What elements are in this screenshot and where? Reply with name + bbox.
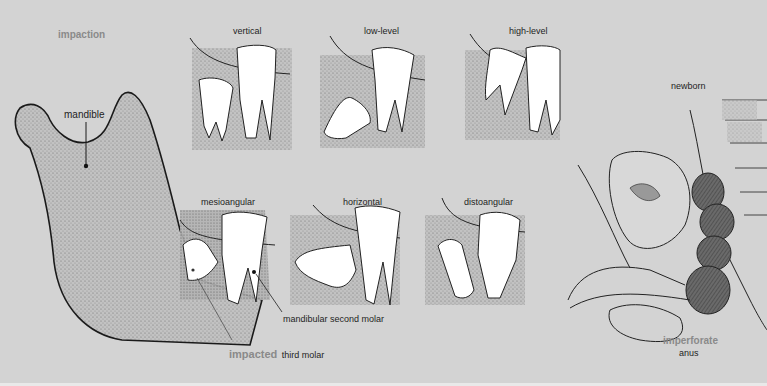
third-molar-highlight: impacted — [229, 348, 277, 360]
tooth-panel-horizontal — [290, 205, 400, 305]
type-label-low-level: low-level — [364, 26, 399, 36]
mandible-label: mandible — [64, 109, 105, 120]
type-label-vertical: vertical — [233, 26, 262, 36]
tooth-panel-distoangular — [425, 198, 525, 305]
type-label-distoangular: distoangular — [464, 197, 513, 207]
impaction-diagram: impaction mandible vertical low-level hi… — [0, 0, 767, 386]
newborn-title: newborn — [671, 81, 706, 91]
third-molar-callout: impacted third molar — [229, 344, 324, 362]
anus-label: anus — [679, 348, 699, 358]
illustration — [0, 0, 767, 386]
newborn-pelvis-illustration — [568, 100, 767, 342]
tooth-panel-high-level — [465, 34, 560, 140]
type-label-high-level: high-level — [509, 26, 548, 36]
imperforate-label: imperforate — [663, 335, 718, 346]
tooth-panel-vertical — [190, 38, 292, 150]
type-label-horizontal: horizontal — [343, 197, 382, 207]
tooth-panel-low-level — [320, 36, 425, 148]
type-label-mesioangular: mesioangular — [201, 197, 255, 207]
impaction-title: impaction — [58, 29, 105, 40]
third-molar-text: third molar — [282, 350, 325, 360]
second-molar-callout: mandibular second molar — [283, 314, 384, 324]
